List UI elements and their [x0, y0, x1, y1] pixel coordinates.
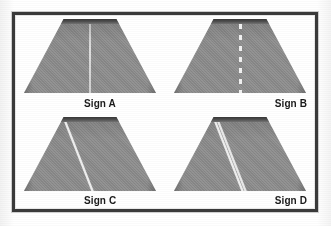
edge-line-stripe-1: [62, 122, 97, 191]
single-edge-line-marking: [24, 122, 156, 191]
dashed-centre-line-marking: [239, 24, 242, 93]
solid-centre-line-marking: [89, 24, 91, 93]
sign-panel-grid: Sign A Sign B: [15, 15, 315, 209]
road-diagram-c: [24, 117, 156, 191]
sign-label-a: Sign A: [84, 98, 116, 109]
sign-label-d: Sign D: [275, 195, 307, 206]
road-diagram-d: [174, 117, 306, 191]
figure-page: Sign A Sign B: [0, 0, 331, 226]
road-diagram-a: [24, 19, 156, 93]
sign-label-b: Sign B: [275, 98, 307, 109]
sign-panel-d[interactable]: Sign D: [165, 112, 315, 209]
sign-panel-a[interactable]: Sign A: [15, 15, 165, 112]
sign-panel-c[interactable]: Sign C: [15, 112, 165, 209]
sign-label-c: Sign C: [84, 195, 116, 206]
sign-panel-b[interactable]: Sign B: [165, 15, 315, 112]
figure-frame: Sign A Sign B: [12, 12, 318, 212]
road-diagram-b: [174, 19, 306, 93]
